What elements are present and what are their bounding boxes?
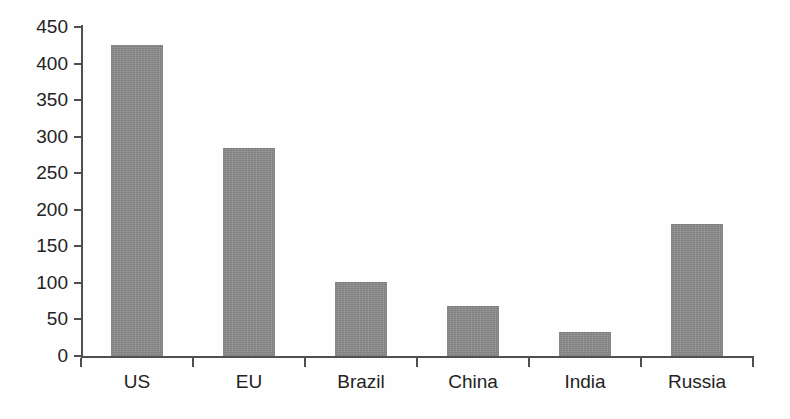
bar-russia — [671, 224, 723, 356]
x-axis-label-russia: Russia — [641, 371, 753, 393]
x-axis-tick — [752, 358, 754, 367]
bar-us — [111, 45, 163, 356]
x-axis-tick — [640, 358, 642, 367]
y-axis-tick-label: 350 — [8, 90, 68, 109]
x-axis-tick — [80, 358, 82, 367]
y-axis-tick-label: 200 — [8, 200, 68, 219]
y-axis-tick-label: 50 — [8, 309, 68, 328]
bar-chart: 050100150200250300350400450 USEUBrazilCh… — [0, 0, 790, 419]
y-axis-tick-label: 0 — [8, 346, 68, 365]
x-axis-tick — [416, 358, 418, 367]
plot-area — [81, 27, 753, 356]
y-axis-tick-label: 250 — [8, 163, 68, 182]
bar-china — [447, 306, 499, 356]
x-axis-label-eu: EU — [193, 371, 305, 393]
y-axis-tick-label: 100 — [8, 273, 68, 292]
bar-brazil — [335, 282, 387, 356]
x-axis-label-india: India — [529, 371, 641, 393]
x-axis-label-brazil: Brazil — [305, 371, 417, 393]
bar-eu — [223, 148, 275, 356]
y-axis-tick-label: 300 — [8, 127, 68, 146]
y-axis-tick-label: 450 — [8, 17, 68, 36]
x-axis-tick — [304, 358, 306, 367]
bar-india — [559, 332, 611, 356]
y-axis-tick-label: 150 — [8, 236, 68, 255]
x-axis-label-us: US — [81, 371, 193, 393]
y-axis-tick-label: 400 — [8, 54, 68, 73]
x-axis-tick — [528, 358, 530, 367]
x-axis-tick — [192, 358, 194, 367]
x-axis-label-china: China — [417, 371, 529, 393]
